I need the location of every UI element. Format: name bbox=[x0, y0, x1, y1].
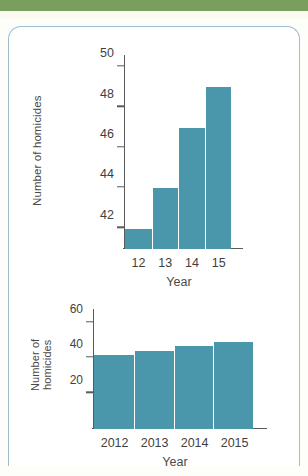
bar-2013 bbox=[152, 188, 178, 249]
figure-caption bbox=[16, 466, 216, 475]
bar-2015 bbox=[213, 342, 253, 429]
x-tick-label: 2014 bbox=[181, 436, 209, 450]
chart-zero-baseline-plot-area: 20 40 60 2012 2013 2014 2015 Year bbox=[93, 309, 253, 429]
bar-2015 bbox=[205, 87, 231, 249]
y-tick-label: 46 bbox=[100, 127, 114, 141]
bar-2012 bbox=[125, 229, 151, 249]
chart-truncated-y-axis-label: Number of homicides bbox=[31, 55, 44, 247]
top-cream-band bbox=[0, 11, 308, 19]
x-tick-label: 2015 bbox=[221, 436, 249, 450]
bar-2012 bbox=[94, 355, 134, 429]
y-tick-label: 60 bbox=[70, 302, 83, 316]
y-tick-label: 48 bbox=[100, 87, 114, 101]
x-tick-label: 15 bbox=[212, 256, 226, 270]
y-tick-label: 50 bbox=[100, 46, 114, 60]
figure-page: Number of homicides 42 44 46 48 50 bbox=[0, 0, 308, 476]
y-tick-label: 40 bbox=[70, 337, 83, 351]
y-tick-label: 44 bbox=[100, 167, 114, 181]
chart-zero-baseline-y-axis-label: Number of homicides bbox=[29, 309, 54, 421]
y-tick-label: 20 bbox=[70, 373, 83, 387]
figure-card: Number of homicides 42 44 46 48 50 bbox=[8, 26, 300, 466]
chart-truncated-axis: Number of homicides 42 44 46 48 50 bbox=[15, 37, 295, 287]
x-tick-label: 13 bbox=[158, 256, 172, 270]
chart-truncated-plot-area: 42 44 46 48 50 12 13 14 15 Year bbox=[124, 55, 231, 249]
bar-2014 bbox=[178, 128, 204, 249]
chart-truncated-bars bbox=[125, 55, 231, 249]
x-tick-label: 2013 bbox=[141, 436, 169, 450]
top-green-band bbox=[0, 0, 308, 11]
y-tick-label: 42 bbox=[100, 208, 114, 222]
x-tick-label: 2012 bbox=[101, 436, 129, 450]
bar-2013 bbox=[134, 351, 174, 429]
bar-2014 bbox=[174, 346, 214, 429]
chart-zero-baseline: Number of homicides 20 40 60 2012 2013 bbox=[15, 295, 295, 463]
x-tick-label: 14 bbox=[185, 256, 199, 270]
chart-truncated-x-axis-label: Year bbox=[166, 275, 191, 289]
x-tick-label: 12 bbox=[131, 256, 145, 270]
chart-zero-baseline-bars bbox=[94, 309, 253, 429]
